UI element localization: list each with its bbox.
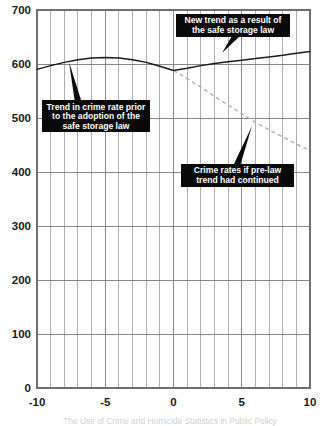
callout-new-trend: New trend as a result of the safe storag… <box>176 14 290 53</box>
y-tick-label: 700 <box>12 4 31 16</box>
x-axis-tick-labels: -10 -5 0 5 10 <box>29 396 317 408</box>
x-tick-label: 5 <box>239 396 246 408</box>
callout-prior-trend-line-3: safe storage law <box>63 121 130 131</box>
y-axis-tick-labels: 700 600 500 400 300 200 100 0 <box>12 4 31 394</box>
x-tick-label: -10 <box>29 396 46 408</box>
callout-new-trend-line-1: New trend as a result of <box>185 15 282 25</box>
crime-rate-trend-chart: 700 600 500 400 300 200 100 0 -10 -5 0 5… <box>0 0 328 426</box>
chart-canvas: 700 600 500 400 300 200 100 0 -10 -5 0 5… <box>0 0 328 426</box>
y-tick-label: 500 <box>12 112 31 124</box>
chart-caption: The Use of Crime and Homicide Statistics… <box>63 416 277 426</box>
callout-prior-trend-line-1: Trend in crime rate prior <box>47 102 147 112</box>
callout-counterfactual-line-2: trend had continued <box>196 175 279 185</box>
plot-gridlines <box>37 10 310 388</box>
callout-prior-trend-line-2: to the adoption of the <box>52 111 140 121</box>
y-tick-label: 200 <box>12 274 31 286</box>
y-tick-label: 300 <box>12 220 31 232</box>
x-tick-label: 10 <box>304 396 317 408</box>
x-tick-label: -5 <box>100 396 111 408</box>
callout-prior-trend: Trend in crime rate prior to the adoptio… <box>42 62 150 132</box>
callout-counterfactual-line-1: Crime rates if pre-law <box>194 165 282 175</box>
y-tick-label: 400 <box>12 166 31 178</box>
y-tick-label: 0 <box>25 382 31 394</box>
x-tick-label: 0 <box>170 396 176 408</box>
callout-counterfactual: Crime rates if pre-law trend had continu… <box>181 126 294 187</box>
callout-new-trend-line-2: the safe storage law <box>192 25 274 35</box>
y-tick-label: 600 <box>12 58 31 70</box>
y-tick-label: 100 <box>12 328 31 340</box>
